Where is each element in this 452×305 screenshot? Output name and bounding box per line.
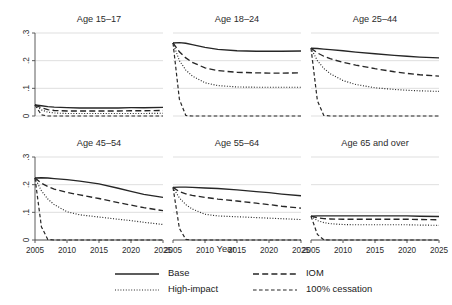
series-line-base <box>311 48 439 58</box>
series-line-high-impact <box>173 43 301 87</box>
x-tick-label: 2020 <box>398 246 417 255</box>
series-line-iom <box>311 48 439 76</box>
panel-title-2: Age 18–24 <box>215 14 259 24</box>
y-tick-label: .3 <box>22 29 31 36</box>
x-tick-label: 2015 <box>366 246 385 255</box>
series-line-high-impact <box>35 178 163 224</box>
series-line-high-impact <box>311 48 439 91</box>
x-tick-label: 2020 <box>122 246 141 255</box>
x-tick-label: 2010 <box>334 246 353 255</box>
panel-title-5: Age 55–64 <box>215 138 259 148</box>
x-tick-label: 2015 <box>90 246 109 255</box>
panel-title-3: Age 25–44 <box>353 14 397 24</box>
x-tick-label: 2005 <box>302 246 321 255</box>
series-line-base <box>35 178 163 198</box>
x-tick-label: 2005 <box>164 246 183 255</box>
series-line-base <box>311 216 439 217</box>
legend-label-100-cessation: 100% cessation <box>306 283 372 294</box>
series-line-high-impact <box>35 105 163 114</box>
legend-label-high-impact: High-impact <box>168 283 218 294</box>
series-line-100-cessation <box>35 178 163 240</box>
series-line-base <box>173 43 301 52</box>
x-tick-label: 2005 <box>26 246 45 255</box>
y-tick-label: .2 <box>22 181 31 188</box>
series-line-base <box>173 187 301 196</box>
series-line-iom <box>173 43 301 73</box>
series-line-base <box>35 105 163 108</box>
panel-title-1: Age 15–17 <box>77 14 121 24</box>
y-tick-label: 0 <box>22 113 31 118</box>
chart-container: Age 15–170.1.2.3Age 18–24Age 25–44Age 45… <box>0 0 452 305</box>
series-line-high-impact <box>311 216 439 225</box>
y-tick-label: 0 <box>22 237 31 242</box>
x-axis-title: Year <box>217 243 236 254</box>
x-tick-label: 2010 <box>196 246 215 255</box>
legend-label-base: Base <box>168 267 189 278</box>
series-line-high-impact <box>173 187 301 219</box>
y-tick-label: .1 <box>22 84 31 91</box>
panel-title-6: Age 65 and over <box>341 138 408 148</box>
y-tick-label: .1 <box>22 208 31 215</box>
y-tick-label: .3 <box>22 153 31 160</box>
x-tick-label: 2020 <box>260 246 279 255</box>
x-tick-label: 2010 <box>58 246 77 255</box>
legend-label-iom: IOM <box>306 267 324 278</box>
x-tick-label: 2025 <box>430 246 449 255</box>
y-tick-label: .2 <box>22 57 31 64</box>
smoking-prevalence-small-multiples-chart: Age 15–170.1.2.3Age 18–24Age 25–44Age 45… <box>0 0 452 305</box>
series-line-100-cessation <box>311 216 439 240</box>
panel-title-4: Age 45–54 <box>77 138 121 148</box>
series-line-100-cessation <box>173 43 301 116</box>
